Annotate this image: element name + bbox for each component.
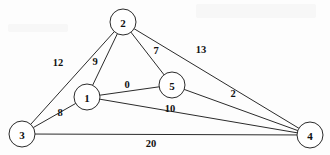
node-label-4: 4 [307, 130, 313, 142]
node-label-2: 2 [120, 17, 126, 29]
edge-weight-label-1-5: 0 [124, 79, 129, 90]
graph-edge-2-4 [134, 29, 299, 129]
graph-edge-2-5 [131, 32, 164, 74]
graph-node-2[interactable]: 2 [110, 9, 136, 35]
edge-weight-label-3-4: 20 [146, 138, 157, 149]
graph-edge-3-4 [35, 134, 297, 135]
edge-weight-label-1-4: 10 [165, 103, 176, 114]
edge-weight-label-5-4: 2 [230, 88, 235, 99]
edge-weight-label-3-1: 8 [57, 107, 62, 118]
node-label-3: 3 [19, 129, 25, 141]
graph-edge-5-4 [184, 89, 298, 130]
graph-edge-1-4 [100, 99, 297, 133]
edge-weight-label-3-2: 12 [53, 57, 64, 68]
edge-weight-label-2-4: 13 [196, 44, 207, 55]
graph-node-3[interactable]: 3 [9, 121, 35, 147]
graph-edge-3-1 [33, 103, 75, 127]
graph-figure: 12345 1297130281020 [0, 0, 330, 155]
node-label-5: 5 [169, 80, 175, 92]
graph-node-5[interactable]: 5 [159, 72, 185, 98]
nodes-layer: 12345 [9, 9, 323, 148]
edge-weight-label-1-2: 9 [92, 56, 97, 67]
graph-edge-3-2 [31, 32, 115, 125]
graph-node-4[interactable]: 4 [297, 122, 323, 148]
edge-weight-label-2-5: 7 [153, 45, 158, 56]
graph-node-1[interactable]: 1 [74, 84, 100, 110]
node-label-1: 1 [84, 92, 90, 104]
graph-canvas: 12345 1297130281020 [0, 0, 330, 155]
